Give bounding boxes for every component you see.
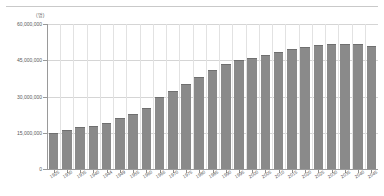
x-tick-label: 2040 bbox=[354, 170, 365, 180]
x-tick-label: 1944 bbox=[102, 170, 113, 180]
bar bbox=[75, 127, 85, 169]
x-tick-label: 1925 bbox=[49, 170, 60, 180]
chart-container: (명) 015,000,00030,000,00045,000,00060,00… bbox=[0, 0, 384, 196]
y-tick-label: 0 bbox=[39, 166, 42, 172]
bar bbox=[327, 44, 337, 169]
y-tick-label: 60,000,000 bbox=[17, 21, 42, 27]
x-tick-label: 1975 bbox=[182, 170, 193, 180]
x-tick-label: 1985 bbox=[208, 170, 219, 180]
x-tick-label: 1995 bbox=[234, 170, 245, 180]
x-tick-label: 1966 bbox=[155, 170, 166, 180]
bar bbox=[115, 118, 125, 169]
x-tick-label: 1980 bbox=[195, 170, 206, 180]
x-tick-label: 2000 bbox=[248, 170, 259, 180]
bar bbox=[62, 130, 72, 169]
bar-series bbox=[47, 24, 378, 169]
y-axis-unit-label: (명) bbox=[36, 11, 44, 18]
x-tick-label: 2025 bbox=[314, 170, 325, 180]
x-tick-label: 1960 bbox=[142, 170, 153, 180]
x-tick-label: 1949 bbox=[115, 170, 126, 180]
bar bbox=[128, 114, 138, 169]
bar bbox=[168, 91, 178, 169]
y-tick-label: 45,000,000 bbox=[17, 57, 42, 63]
x-tick-label: 1935 bbox=[76, 170, 87, 180]
bar bbox=[353, 44, 363, 169]
x-tick-label: 1930 bbox=[62, 170, 73, 180]
x-tick-label: 2045 bbox=[367, 170, 378, 180]
bar bbox=[194, 77, 204, 169]
y-tick-label: 30,000,000 bbox=[17, 94, 42, 100]
bar bbox=[49, 133, 59, 169]
x-tick-label: 2035 bbox=[340, 170, 351, 180]
x-tick-label: 1990 bbox=[221, 170, 232, 180]
x-tick-label: 2015 bbox=[287, 170, 298, 180]
x-tick-label: 2010 bbox=[274, 170, 285, 180]
y-tick-label: 15,000,000 bbox=[17, 130, 42, 136]
bar bbox=[261, 55, 271, 169]
bar bbox=[340, 44, 350, 169]
bar bbox=[155, 97, 165, 169]
header-divider bbox=[6, 6, 378, 7]
x-tick-label: 1970 bbox=[168, 170, 179, 180]
x-axis-ticks: 1925193019351940194419491955196019661970… bbox=[47, 170, 378, 196]
x-tick-label: 2030 bbox=[327, 170, 338, 180]
bar bbox=[287, 49, 297, 169]
x-tick-label: 1955 bbox=[129, 170, 140, 180]
bar bbox=[89, 126, 99, 170]
x-tick-label: 1940 bbox=[89, 170, 100, 180]
x-tick-label: 2005 bbox=[261, 170, 272, 180]
bar bbox=[221, 64, 231, 169]
bar bbox=[300, 47, 310, 169]
bar bbox=[314, 45, 324, 169]
bar bbox=[208, 70, 218, 169]
bar bbox=[181, 84, 191, 169]
bar bbox=[102, 123, 112, 169]
x-tick-label: 2020 bbox=[301, 170, 312, 180]
bar bbox=[247, 58, 257, 169]
bar bbox=[274, 52, 284, 169]
bar bbox=[234, 60, 244, 169]
bar bbox=[367, 46, 377, 169]
bar bbox=[142, 108, 152, 169]
